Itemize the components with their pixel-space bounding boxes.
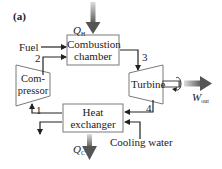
combustion-chamber-line2: chamber: [67, 50, 119, 62]
combustion-chamber-line1: Combustion: [67, 38, 119, 50]
heat-input-arrow-icon: [86, 2, 101, 34]
state-point-4: 4: [146, 102, 152, 114]
cooling-water-label: Cooling water: [110, 136, 173, 148]
panel-label: (a): [13, 10, 26, 22]
combustion-chamber-label: Combustion chamber: [67, 38, 119, 62]
state-point-2: 2: [35, 52, 41, 64]
heat-exchanger-line1: Heat: [63, 106, 123, 118]
shaft-icon: [163, 81, 180, 87]
heat-exchanger-label: Heat exchanger: [63, 106, 123, 130]
heat-input-symbol: Q: [73, 24, 81, 36]
heat-output-label: QC: [73, 143, 85, 159]
turbine-label: Turbine: [131, 78, 165, 90]
compressor-label: Com- pressor: [14, 73, 52, 97]
work-output-symbol: W: [192, 91, 201, 103]
heat-output-subscript: C: [81, 150, 85, 156]
state-point-1: 1: [36, 104, 42, 116]
flow-line-3: [120, 50, 138, 70]
work-output-arrow-icon: [184, 76, 212, 91]
heat-exchanger-line2: exchanger: [63, 118, 123, 130]
heat-output-symbol: Q: [73, 143, 81, 155]
compressor-line2: pressor: [14, 85, 52, 97]
work-output-label: Wout: [192, 91, 209, 107]
work-output-subscript: out: [201, 98, 209, 104]
cooling-water-out-line: [40, 122, 62, 134]
compressor-line1: Com-: [14, 73, 52, 85]
state-point-3: 3: [142, 51, 148, 63]
heat-input-subscript: H: [81, 31, 85, 37]
